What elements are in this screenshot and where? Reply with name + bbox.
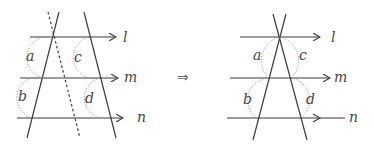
- right-figure: l m n a b c d: [227, 14, 358, 140]
- angle-label-a: a: [26, 48, 34, 64]
- angle-label-a-right: a: [253, 47, 261, 63]
- angle-label-b-right: b: [243, 91, 252, 107]
- label-m: m: [124, 69, 137, 85]
- arc-c-right: [280, 37, 299, 78]
- angle-label-c-right: c: [299, 47, 307, 63]
- left-figure: l m n a b c d: [17, 12, 146, 138]
- label-n-right: n: [349, 109, 358, 125]
- diagram-canvas: l m n a b c d ⇒ l m n a b c d: [0, 0, 374, 152]
- transversal-right-right: [273, 14, 307, 140]
- transversal-left-right: [253, 14, 286, 140]
- angle-label-d: d: [85, 90, 94, 106]
- transversal-left: [27, 12, 59, 138]
- angle-label-b: b: [18, 88, 27, 104]
- label-n: n: [137, 109, 146, 125]
- label-m-right: m: [334, 69, 347, 85]
- angle-label-d-right: d: [306, 91, 315, 107]
- auxiliary-dashed-line: [48, 12, 80, 138]
- transversal-right: [84, 12, 116, 138]
- label-l: l: [123, 29, 127, 45]
- label-l-right: l: [331, 29, 335, 45]
- implies-symbol: ⇒: [177, 69, 189, 85]
- angle-label-c: c: [74, 49, 82, 65]
